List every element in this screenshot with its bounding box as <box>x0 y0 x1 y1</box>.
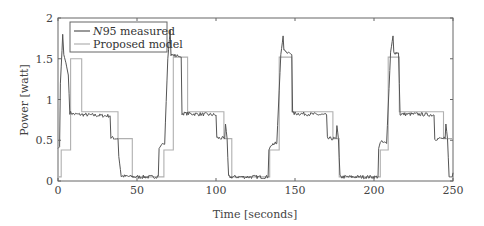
y-axis-tick-labels: 00.511.52 <box>36 12 54 188</box>
x-tick-label: 200 <box>364 184 385 197</box>
y-axis-label: Power [watt] <box>18 64 31 136</box>
power-chart: 050100150200250 00.511.52 Time [seconds]… <box>0 0 484 226</box>
series-model-line <box>58 57 453 177</box>
x-tick-label: 100 <box>206 184 227 197</box>
y-tick-label: 0.5 <box>36 134 54 147</box>
x-axis-label: Time [seconds] <box>213 208 298 221</box>
legend: N95 measured Proposed model <box>70 22 183 52</box>
legend-label-measured: N95 measured <box>92 25 175 38</box>
y-tick-label: 1.5 <box>36 53 54 66</box>
y-tick-label: 0 <box>46 175 53 188</box>
x-tick-label: 0 <box>55 184 62 197</box>
x-tick-label: 150 <box>285 184 306 197</box>
x-tick-label: 50 <box>130 184 144 197</box>
legend-label-model: Proposed model <box>93 38 183 51</box>
x-axis-tick-labels: 050100150200250 <box>55 184 464 197</box>
y-tick-label: 1 <box>46 94 53 107</box>
x-tick-label: 250 <box>443 184 464 197</box>
y-tick-label: 2 <box>46 12 53 25</box>
